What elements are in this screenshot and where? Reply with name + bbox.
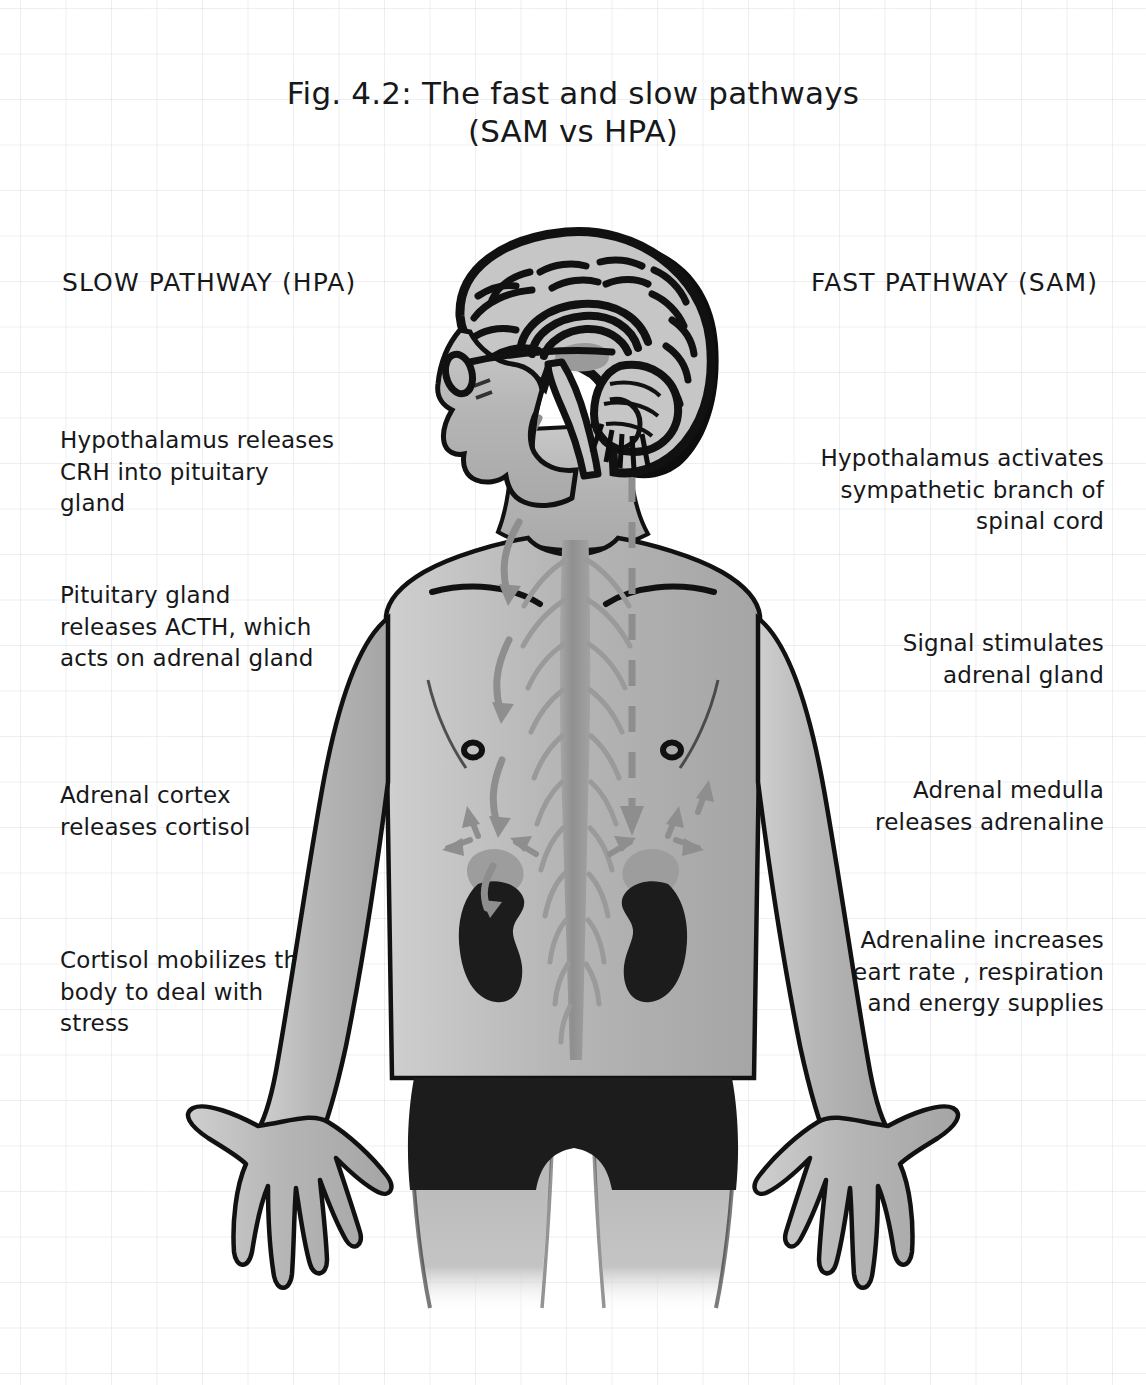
figure-title: Fig. 4.2: The fast and slow pathways (SA… xyxy=(0,74,1146,151)
figure-page: Fig. 4.2: The fast and slow pathways (SA… xyxy=(0,0,1146,1385)
right-hand xyxy=(755,1106,958,1287)
skull xyxy=(460,231,711,473)
left-hand xyxy=(188,1106,391,1287)
hair-strokes xyxy=(592,424,648,470)
human-figure-illustration xyxy=(0,0,1146,1385)
slow-step-1: Hypothalamus releases CRH into pituitary… xyxy=(60,425,335,520)
figure-title-line-2: (SAM vs HPA) xyxy=(0,112,1146,150)
shorts xyxy=(408,1078,738,1190)
fast-pathway-dashed-line xyxy=(620,430,644,836)
slow-step-2: Pituitary gland releases ACTH, which act… xyxy=(60,580,335,675)
cerebellum xyxy=(594,365,678,452)
cerebellum-folia xyxy=(604,383,660,437)
face-profile xyxy=(438,330,576,505)
fast-step-3: Adrenal medulla releases adrenaline xyxy=(819,775,1104,838)
torso xyxy=(386,538,760,1078)
figure-title-line-1: Fig. 4.2: The fast and slow pathways xyxy=(0,74,1146,112)
legs xyxy=(412,1150,734,1312)
brainstem xyxy=(531,343,609,476)
fast-pathway-arrowhead xyxy=(620,806,644,836)
adrenal-output-arrows xyxy=(442,780,714,856)
face-detail xyxy=(474,380,492,398)
ear xyxy=(610,399,640,448)
left-kidney-group xyxy=(459,849,524,1002)
slow-pathway-arrows xyxy=(484,418,539,908)
neck xyxy=(498,424,648,550)
slow-step-3: Adrenal cortex releases cortisol xyxy=(60,780,335,843)
hair-mass xyxy=(604,240,719,478)
right-nipple xyxy=(663,743,681,758)
fast-step-1: Hypothalamus activates sympathetic branc… xyxy=(819,443,1104,538)
spinal-cord xyxy=(523,470,630,1060)
head-sagittal-section xyxy=(438,231,719,505)
fast-pathway-heading: FAST PATHWAY (SAM) xyxy=(811,268,1098,297)
left-nipple xyxy=(464,743,482,758)
left-kidney xyxy=(459,881,524,1002)
fast-step-4: Adrenaline increases heart rate , respir… xyxy=(819,925,1104,1020)
slow-step-4: Cortisol mobilizes the body to deal with… xyxy=(60,945,335,1040)
glasses xyxy=(442,350,612,396)
left-arm xyxy=(258,618,388,1148)
corpus-callosum xyxy=(520,304,648,356)
right-kidney xyxy=(622,881,687,1002)
slow-pathway-heading: SLOW PATHWAY (HPA) xyxy=(62,268,356,297)
brain-cerebrum xyxy=(470,260,694,442)
left-adrenal-gland xyxy=(467,849,524,890)
right-arm xyxy=(758,618,888,1148)
right-adrenal-gland xyxy=(622,849,679,890)
nerve-branches xyxy=(523,560,630,1042)
right-kidney-group xyxy=(622,849,687,1002)
slow-pathway-arrowheads xyxy=(482,470,540,918)
fast-step-2: Signal stimulates adrenal gland xyxy=(819,628,1104,691)
